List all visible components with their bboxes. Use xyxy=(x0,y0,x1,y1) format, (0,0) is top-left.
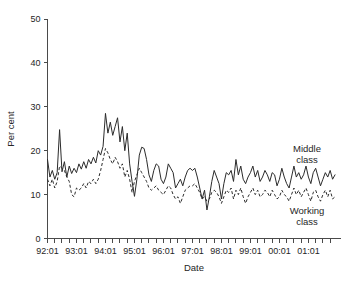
y-tick-label: 10 xyxy=(30,190,40,200)
x-tick-label: 92:01 xyxy=(36,246,59,256)
x-tick-label: 94:01 xyxy=(94,246,117,256)
working-class-label-line2: class xyxy=(296,216,318,227)
x-tick-label: 99:01 xyxy=(239,246,262,256)
x-tick-label: 97:01 xyxy=(181,246,204,256)
y-tick-label: 20 xyxy=(30,146,40,156)
x-tick-label: 98:01 xyxy=(210,246,233,256)
line-chart: 01020304050 Per cent 92:0193:0194:0195:0… xyxy=(0,0,349,282)
working-class-label-line1: Working xyxy=(290,205,325,216)
chart-container: 01020304050 Per cent 92:0193:0194:0195:0… xyxy=(0,0,349,282)
y-tick-label: 40 xyxy=(30,58,40,68)
y-tick-label: 0 xyxy=(35,234,40,244)
y-tick-label: 30 xyxy=(30,102,40,112)
y-axis-title: Per cent xyxy=(5,111,16,147)
middle-class-label-line1: Middle xyxy=(293,143,321,154)
x-tick-label: 00:01 xyxy=(268,246,291,256)
x-tick-label: 01:01 xyxy=(297,246,320,256)
y-tick-label: 50 xyxy=(30,14,40,24)
x-tick-label: 95:01 xyxy=(123,246,146,256)
x-axis-title: Date xyxy=(184,262,204,273)
x-tick-label: 96:01 xyxy=(152,246,175,256)
middle-class-label-line2: class xyxy=(296,154,318,165)
chart-background xyxy=(0,0,349,282)
x-tick-label: 93:01 xyxy=(65,246,88,256)
